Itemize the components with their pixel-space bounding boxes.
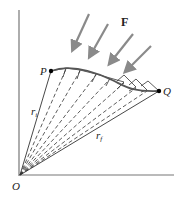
- path-curve: [51, 68, 159, 91]
- point-p-label: P: [39, 65, 47, 77]
- work-along-path-diagram: F P Q O ri rf: [0, 0, 185, 199]
- force-label: F: [121, 15, 128, 29]
- origin-label: O: [12, 180, 20, 192]
- point-q-dot: [157, 89, 161, 93]
- radial-dashed-lines: [20, 69, 147, 175]
- r-final-label: rf: [96, 129, 103, 143]
- force-arrow-icon: [90, 24, 108, 56]
- force-arrow-icon: [126, 46, 151, 71]
- point-q-label: Q: [163, 85, 171, 97]
- displacement-steps: [51, 68, 159, 92]
- force-arrow-icon: [73, 14, 89, 49]
- r-initial-label: ri: [31, 105, 37, 119]
- force-arrows: [73, 14, 151, 71]
- force-arrow-icon: [110, 34, 133, 63]
- point-p-dot: [49, 69, 53, 73]
